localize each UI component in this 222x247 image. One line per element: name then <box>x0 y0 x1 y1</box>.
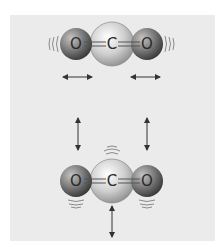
vibration-lines-left-icon <box>49 36 58 52</box>
vibration-lines-bottom-left-icon <box>68 200 84 208</box>
molecule-bending: O C O <box>60 118 163 237</box>
atom-label-c: C <box>107 172 117 190</box>
vibration-lines-right-icon <box>165 36 174 52</box>
atom-label-o: O <box>70 172 82 190</box>
atom-label-o: O <box>141 172 153 190</box>
co2-vibration-diagram: O C O <box>0 0 222 247</box>
atom-label-c: C <box>107 35 117 53</box>
vibration-lines-top-icon <box>104 146 120 154</box>
vibration-lines-bottom-right-icon <box>139 200 155 208</box>
atom-label-o: O <box>141 35 153 53</box>
atom-label-o: O <box>70 35 82 53</box>
molecule-stretching: O C O <box>49 22 174 77</box>
